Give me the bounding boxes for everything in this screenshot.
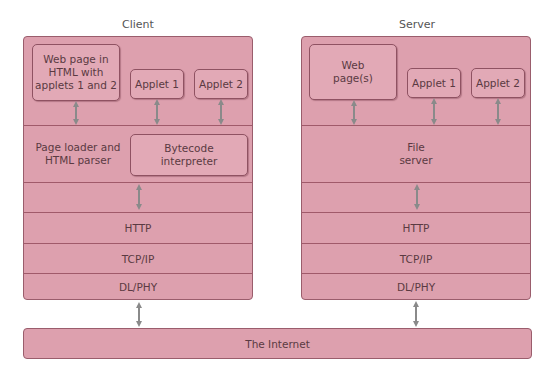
server-layer-dlphy: DL/PHY xyxy=(302,273,530,300)
server-applet2-box: Applet 2 xyxy=(471,68,525,98)
client-applet2-label: Applet 2 xyxy=(199,78,243,91)
client-applet1-label: Applet 1 xyxy=(135,78,179,91)
client-tcpip-label: TCP/IP xyxy=(122,253,154,265)
server-applet2-label: Applet 2 xyxy=(476,77,520,90)
client-layer-tcpip: TCP/IP xyxy=(24,243,252,273)
server-layer-http: HTTP xyxy=(302,212,530,243)
double-arrow-icon xyxy=(414,184,420,210)
server-web-page-box: Web page(s) xyxy=(309,44,397,100)
server-web-page-label: Web page(s) xyxy=(333,59,373,85)
client-stack: Web page in HTML with applets 1 and 2 Ap… xyxy=(23,36,253,300)
client-layer-http: HTTP xyxy=(24,212,252,243)
client-applet2-box: Applet 2 xyxy=(194,69,248,99)
client-applet1-box: Applet 1 xyxy=(130,69,184,99)
client-web-page-label: Web page in HTML with applets 1 and 2 xyxy=(35,53,117,92)
server-layer-tcpip: TCP/IP xyxy=(302,243,530,273)
server-file-server-label: File server xyxy=(399,141,432,167)
client-http-label: HTTP xyxy=(125,222,152,234)
server-applet1-label: Applet 1 xyxy=(412,77,456,90)
server-applet1-box: Applet 1 xyxy=(407,68,461,98)
double-arrow-icon xyxy=(218,99,224,125)
internet-label: The Internet xyxy=(245,338,310,350)
client-bytecode-label: Bytecode interpreter xyxy=(161,142,218,168)
double-arrow-icon xyxy=(154,99,160,125)
client-dlphy-label: DL/PHY xyxy=(119,281,157,293)
double-arrow-icon xyxy=(73,101,79,125)
double-arrow-icon xyxy=(136,184,142,210)
double-arrow-icon xyxy=(351,100,357,125)
client-layer-dlphy: DL/PHY xyxy=(24,273,252,300)
server-http-label: HTTP xyxy=(403,222,430,234)
internet-bar: The Internet xyxy=(23,328,532,359)
double-arrow-icon xyxy=(136,302,142,327)
client-web-page-box: Web page in HTML with applets 1 and 2 xyxy=(32,44,120,101)
double-arrow-icon xyxy=(495,98,501,125)
double-arrow-icon xyxy=(431,98,437,125)
server-tcpip-label: TCP/IP xyxy=(400,253,432,265)
client-bytecode-box: Bytecode interpreter xyxy=(130,134,248,176)
client-page-loader-label: Page loader and HTML parser xyxy=(28,141,128,167)
server-dlphy-label: DL/PHY xyxy=(397,281,435,293)
double-arrow-icon xyxy=(413,301,419,327)
server-stack: Web page(s) Applet 1 Applet 2 File serve… xyxy=(301,36,531,300)
server-title: Server xyxy=(357,18,477,31)
client-title: Client xyxy=(78,18,198,31)
server-file-server-layer: File server xyxy=(302,125,530,182)
